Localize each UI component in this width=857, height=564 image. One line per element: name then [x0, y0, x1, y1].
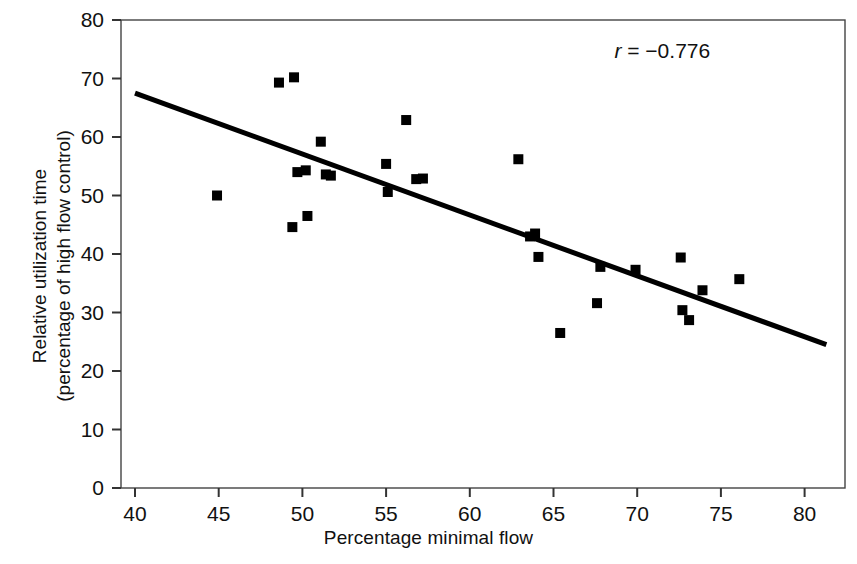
- data-point-marker: [212, 191, 222, 201]
- y-axis-tick-labels: 01020304050607080: [81, 8, 104, 499]
- data-point-marker: [697, 285, 707, 295]
- y-axis-ticks: [112, 20, 121, 488]
- y-tick-label: 50: [81, 184, 104, 207]
- x-tick-label: 60: [458, 502, 481, 525]
- data-point-marker: [418, 174, 428, 184]
- data-point-marker: [302, 211, 312, 221]
- data-point-marker: [401, 115, 411, 125]
- data-point-marker: [289, 72, 299, 82]
- data-point-marker: [533, 252, 543, 262]
- y-tick-label: 70: [81, 67, 104, 90]
- data-point-marker: [595, 262, 605, 272]
- data-point-marker: [530, 229, 540, 239]
- y-tick-label: 60: [81, 125, 104, 148]
- y-tick-label: 20: [81, 359, 104, 382]
- y-tick-label: 0: [92, 476, 104, 499]
- data-point-marker: [676, 253, 686, 263]
- y-tick-label: 80: [81, 8, 104, 31]
- x-axis-title: Percentage minimal flow: [0, 527, 857, 549]
- x-tick-label: 70: [626, 502, 649, 525]
- y-axis-title-line-2: (percentage of high flow control): [52, 130, 76, 401]
- scatter-plot-figure: 404550556065707580 01020304050607080 r =…: [0, 0, 857, 564]
- plot-canvas: 404550556065707580 01020304050607080 r =…: [0, 0, 857, 564]
- data-point-marker: [274, 78, 284, 88]
- y-axis-title: Relative utilization time (percentage of…: [26, 31, 78, 501]
- y-tick-label: 10: [81, 418, 104, 441]
- x-tick-label: 75: [709, 502, 732, 525]
- data-point-marker: [287, 222, 297, 232]
- y-tick-label: 40: [81, 242, 104, 265]
- regression-line: [135, 93, 826, 345]
- data-point-marker: [631, 265, 641, 275]
- data-point-marker: [301, 165, 311, 175]
- x-tick-label: 65: [542, 502, 565, 525]
- data-point-marker: [381, 159, 391, 169]
- correlation-coefficient: r = −0.776: [614, 39, 710, 62]
- x-tick-label: 80: [793, 502, 816, 525]
- x-axis-ticks: [135, 488, 805, 497]
- data-point-marker: [513, 154, 523, 164]
- y-axis-title-line-1: Relative utilization time: [28, 169, 52, 363]
- axis-frame: [121, 20, 845, 488]
- data-point-marker: [326, 171, 336, 181]
- data-points: [212, 72, 744, 338]
- x-tick-label: 50: [291, 502, 314, 525]
- data-point-marker: [592, 298, 602, 308]
- data-point-marker: [677, 305, 687, 315]
- data-point-marker: [684, 315, 694, 325]
- data-point-marker: [555, 328, 565, 338]
- data-point-marker: [383, 187, 393, 197]
- x-tick-label: 45: [207, 502, 230, 525]
- data-point-marker: [316, 137, 326, 147]
- x-tick-label: 40: [123, 502, 146, 525]
- y-tick-label: 30: [81, 301, 104, 324]
- chart-annotations: r = −0.776: [614, 39, 710, 62]
- x-tick-label: 55: [374, 502, 397, 525]
- x-axis-tick-labels: 404550556065707580: [123, 502, 816, 525]
- data-point-marker: [734, 274, 744, 284]
